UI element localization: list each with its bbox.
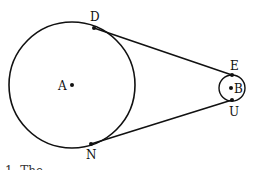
point-a — [70, 83, 74, 87]
label-a: A — [57, 79, 67, 93]
label-e: E — [230, 59, 239, 73]
tangent-circles-diagram: A B D E N U 1. The — [0, 0, 253, 170]
point-n — [89, 142, 93, 146]
tangent-de — [94, 28, 232, 75]
tangent-nu — [91, 100, 232, 144]
point-b — [229, 86, 233, 90]
caption-fragment: 1. The — [5, 164, 43, 170]
point-d — [92, 26, 96, 30]
point-u — [230, 98, 234, 102]
label-n: N — [86, 148, 97, 162]
label-d: D — [90, 10, 100, 24]
point-e — [230, 73, 234, 77]
label-u: U — [229, 105, 239, 119]
label-b: B — [234, 82, 243, 96]
